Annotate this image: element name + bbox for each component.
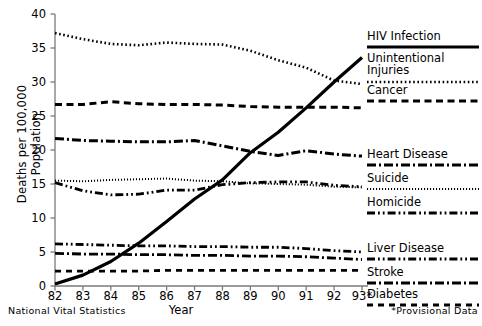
legend-item-label: Diabetes — [367, 288, 482, 300]
series-line — [55, 102, 362, 108]
legend-item-label: Stroke — [367, 266, 482, 278]
legend-item[interactable]: Liver Disease — [367, 242, 482, 265]
x-axis-title: Year — [0, 303, 362, 317]
series-line — [55, 270, 362, 271]
legend-item-label: Homicide — [367, 196, 482, 208]
legend-item-label: Cancer — [367, 84, 482, 96]
legend-item[interactable]: Homicide — [367, 196, 482, 219]
provisional-note: *Provisional Data — [391, 305, 478, 316]
legend-item[interactable]: Stroke — [367, 266, 482, 289]
legend-item[interactable]: Cancer — [367, 84, 482, 107]
series-line — [55, 138, 362, 156]
legend-item-label: Suicide — [367, 172, 482, 184]
legend-item-line-sample — [367, 96, 479, 107]
legend-item[interactable]: Heart Disease — [367, 148, 482, 171]
chart-legend: HIV InfectionUnintentional InjuriesCance… — [367, 0, 482, 300]
legend-item-line-sample — [367, 254, 479, 265]
legend-item-label: HIV Infection — [367, 30, 482, 42]
series-line — [55, 244, 362, 252]
legend-item-label: Unintentional Injuries — [367, 52, 482, 77]
legend-item-line-sample — [367, 184, 479, 195]
legend-item-line-sample — [367, 208, 479, 219]
series-line — [55, 58, 362, 284]
legend-item[interactable]: HIV Infection — [367, 30, 482, 53]
series-line — [55, 33, 362, 84]
series-line — [55, 253, 362, 259]
legend-item-label: Heart Disease — [367, 148, 482, 160]
chart-figure: Deaths per 100,000 Population 0510152025… — [0, 0, 482, 326]
legend-item[interactable]: Suicide — [367, 172, 482, 195]
legend-item-label: Liver Disease — [367, 242, 482, 254]
legend-item-line-sample — [367, 160, 479, 171]
series-line — [55, 182, 362, 195]
